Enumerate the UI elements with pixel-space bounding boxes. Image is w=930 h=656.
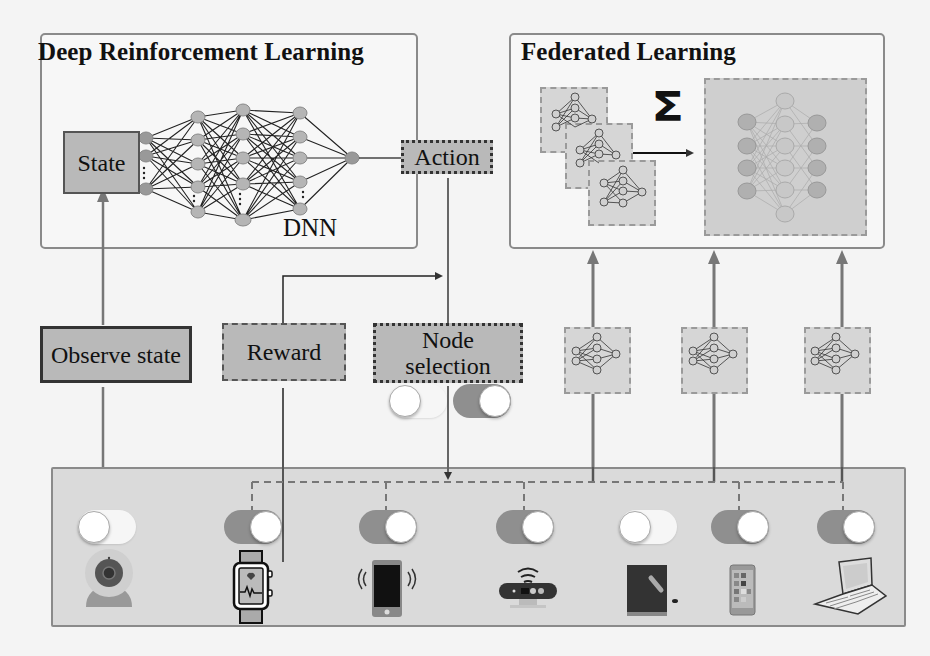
toggle-knob bbox=[250, 511, 282, 543]
observe-state-label: Observe state bbox=[51, 343, 181, 367]
smartwatch-icon bbox=[234, 551, 272, 623]
client-model-networks bbox=[572, 333, 859, 374]
device-toggle-smartwatch[interactable] bbox=[224, 510, 282, 544]
toggle-knob bbox=[843, 511, 875, 543]
node-selection-label: Node selection bbox=[400, 327, 496, 379]
laptop-icon bbox=[815, 558, 886, 614]
device-toggle-phone[interactable] bbox=[711, 510, 769, 544]
local-model-networks bbox=[552, 93, 646, 207]
tablet-icon bbox=[627, 565, 678, 616]
device-toggle-tablet[interactable] bbox=[619, 510, 677, 544]
device-toggle-webcam[interactable] bbox=[78, 510, 136, 544]
toggle-knob bbox=[737, 511, 769, 543]
toggle-knob bbox=[385, 511, 417, 543]
dnn-network bbox=[146, 110, 352, 220]
selection-bus bbox=[252, 482, 843, 512]
dnn-label: DNN bbox=[283, 214, 337, 242]
observe-state-box: Observe state bbox=[40, 326, 192, 383]
device-toggle-laptop[interactable] bbox=[817, 510, 875, 544]
toggle-knob bbox=[479, 385, 511, 417]
toggle-knob bbox=[78, 511, 110, 543]
toggle-knob bbox=[619, 511, 651, 543]
selection-toggle-on[interactable] bbox=[453, 384, 511, 418]
upload-arrows bbox=[593, 262, 842, 467]
device-toggle-router[interactable] bbox=[496, 510, 554, 544]
router-icon bbox=[499, 569, 557, 609]
global-model-network bbox=[738, 93, 826, 222]
node-selection-box: Node selection bbox=[373, 323, 523, 383]
toggle-knob bbox=[389, 385, 421, 417]
webcam-icon bbox=[85, 549, 133, 607]
aggregation-symbol: Σ bbox=[651, 87, 684, 127]
state-label: State bbox=[78, 151, 126, 175]
device-toggle-smartphone[interactable] bbox=[359, 510, 417, 544]
action-label: Action bbox=[414, 145, 479, 169]
toggle-knob bbox=[522, 511, 554, 543]
action-box: Action bbox=[401, 140, 493, 174]
phone-icon bbox=[730, 565, 755, 615]
smartphone-icon bbox=[359, 560, 416, 617]
selection-toggle-off[interactable] bbox=[389, 384, 447, 418]
reward-connector bbox=[283, 276, 441, 323]
reward-box: Reward bbox=[222, 323, 346, 381]
state-box: State bbox=[63, 131, 140, 194]
reward-label: Reward bbox=[247, 340, 322, 364]
